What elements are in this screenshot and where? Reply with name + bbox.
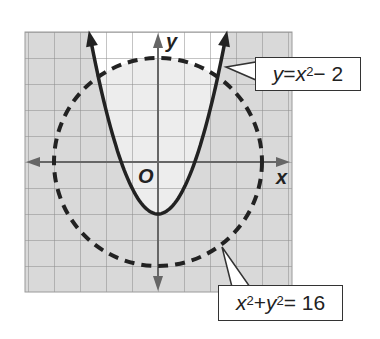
origin-label: O [138, 165, 154, 188]
y-axis-label: y [166, 30, 177, 53]
x-axis-label: x [276, 166, 287, 189]
parabola-equation-label: y = x2 − 2 [255, 57, 361, 91]
circle-equation-label: x2 + y2 = 16 [218, 285, 343, 321]
